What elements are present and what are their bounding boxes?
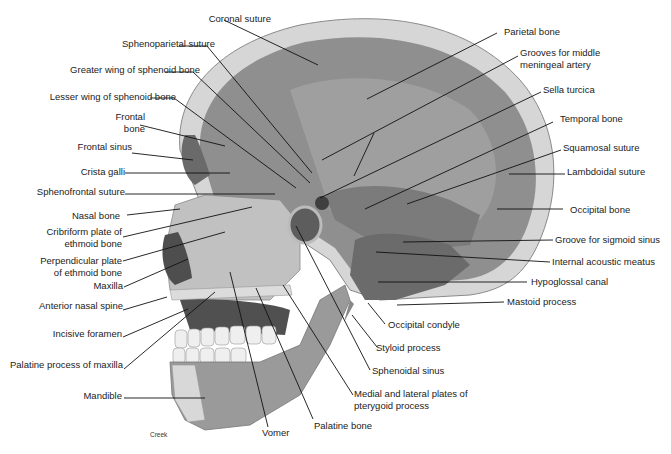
label-temporal-bone: Temporal bone [560, 113, 623, 125]
label-lambdoidal-suture: Lambdoidal suture [567, 166, 645, 178]
label-palatine-bone: Palatine bone [314, 420, 372, 432]
leader-line-anterior-nasal-spine [123, 297, 167, 310]
label-pterygoid-plates: Medial and lateral plates of pterygoid p… [354, 388, 468, 411]
label-nasal-bone: Nasal bone [60, 210, 120, 222]
sella-turcica-shape [315, 196, 329, 210]
facial-skeleton [165, 195, 300, 300]
sphenoid-sinus-shape [289, 207, 321, 243]
skull-diagram: Coronal sutureSphenoparietal sutureGreat… [0, 0, 671, 454]
label-palatine-process-maxilla: Palatine process of maxilla [0, 359, 123, 371]
label-occipital-bone: Occipital bone [570, 204, 630, 216]
leader-line-nasal-bone [127, 209, 180, 215]
label-incisive-foramen: Incisive foramen [30, 328, 122, 340]
label-occipital-condyle: Occipital condyle [388, 319, 460, 331]
label-hypoglossal-canal: Hypoglossal canal [531, 276, 608, 288]
label-anterior-nasal-spine: Anterior nasal spine [20, 300, 123, 312]
label-greater-wing-sphenoid: Greater wing of sphenoid bone [10, 64, 200, 76]
label-mastoid-process: Mastoid process [507, 296, 576, 308]
label-frontal-sinus: Frontal sinus [60, 141, 132, 153]
label-lesser-wing-sphenoid: Lesser wing of sphenoid bone [4, 91, 176, 103]
teeth [173, 326, 276, 364]
label-vomer: Vomer [262, 427, 289, 439]
label-styloid-process: Styloid process [376, 342, 440, 354]
label-crista-galli: Crista galli [60, 166, 125, 178]
label-groove-sigmoid-sinus: Groove for sigmoid sinus [555, 234, 660, 246]
label-parietal-bone: Parietal bone [504, 26, 560, 38]
label-grooves-middle-meningeal: Grooves for middle meningeal artery [520, 47, 600, 70]
illustrator-credit: Creek [150, 431, 167, 438]
label-perpendicular-plate: Perpendicular plate of ethmoid bone [30, 255, 122, 278]
label-squamosal-suture: Squamosal suture [563, 142, 640, 154]
label-sphenoidal-sinus: Sphenoidal sinus [372, 365, 444, 377]
label-maxilla: Maxilla [60, 280, 123, 292]
leader-line-mastoid-process [397, 302, 504, 305]
label-cribriform-plate: Cribriform plate of ethmoid bone [30, 226, 122, 249]
label-mandible: Mandible [60, 390, 122, 402]
leader-line-occipital-condyle [368, 303, 385, 324]
label-coronal-suture: Coronal suture [116, 13, 271, 25]
label-frontal-bone: Frontal bone [85, 111, 145, 134]
label-sphenoparietal-suture: Sphenoparietal suture [60, 38, 215, 50]
label-internal-acoustic-meatus: Internal acoustic meatus [552, 256, 655, 268]
label-sphenofrontal-suture: Sphenofrontal suture [20, 186, 125, 198]
label-sella-turcica: Sella turcica [543, 84, 595, 96]
